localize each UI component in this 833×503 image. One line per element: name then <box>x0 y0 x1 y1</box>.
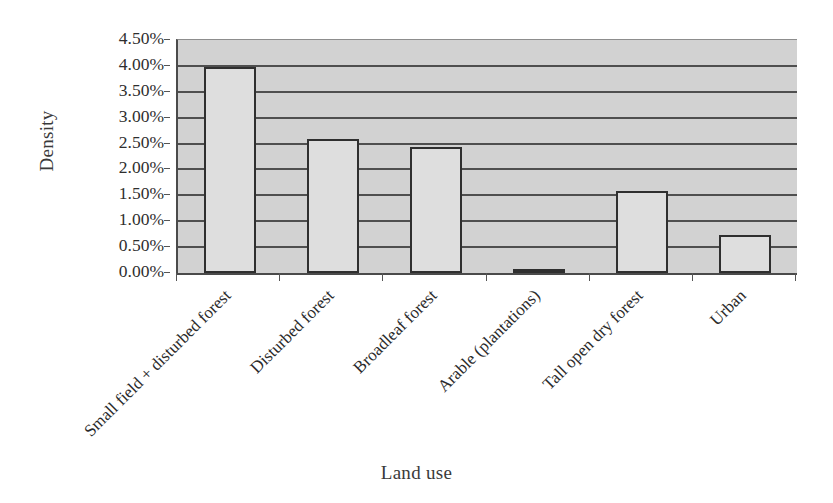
x-axis-title: Land use <box>0 462 833 484</box>
bar[interactable] <box>410 147 462 273</box>
y-axis-tick-mark <box>164 272 170 273</box>
x-axis-tick-mark <box>795 273 796 281</box>
y-axis-tick-label: 1.50% <box>119 186 164 204</box>
y-axis-tick-mark <box>164 39 170 40</box>
x-axis-category-label: Small field + disturbed forest <box>52 286 234 468</box>
x-axis-tick-marks <box>176 273 797 282</box>
bar[interactable] <box>204 67 256 273</box>
y-axis-tick-label: 0.50% <box>119 237 164 255</box>
plot-area <box>176 39 797 273</box>
x-axis-category-label: Tall open dry forest <box>465 286 647 468</box>
x-axis-tick-mark <box>589 273 590 281</box>
y-axis-tick-labels: 0.00%0.50%1.00%1.50%2.00%2.50%3.00%3.50%… <box>104 39 170 272</box>
y-axis-tick-mark <box>164 143 170 144</box>
y-axis-tick-mark <box>164 194 170 195</box>
y-axis-tick-label: 4.00% <box>119 56 164 74</box>
y-axis-title: Density <box>36 81 58 201</box>
y-axis-tick-label: 3.50% <box>119 82 164 100</box>
y-axis-tick-mark <box>164 246 170 247</box>
y-axis-tick-label: 0.00% <box>119 263 164 281</box>
y-axis-tick-label: 2.50% <box>119 134 164 152</box>
y-axis-tick-label: 1.00% <box>119 211 164 229</box>
x-axis-category-label: Urban <box>568 286 750 468</box>
bar-chart: Density 0.00%0.50%1.00%1.50%2.00%2.50%3.… <box>0 0 833 503</box>
x-axis-category-label: Broadleaf forest <box>258 286 440 468</box>
x-axis-tick-mark <box>382 273 383 281</box>
bar[interactable] <box>719 235 771 273</box>
y-axis-tick-mark <box>164 91 170 92</box>
bars-layer <box>178 40 797 273</box>
y-axis-tick-label: 3.00% <box>119 108 164 126</box>
x-axis-tick-mark <box>692 273 693 281</box>
x-axis-tick-mark <box>486 273 487 281</box>
bar[interactable] <box>616 191 668 273</box>
x-axis-category-label: Disturbed forest <box>155 286 337 468</box>
x-axis-tick-mark <box>176 273 177 281</box>
y-axis-tick-mark <box>164 117 170 118</box>
bar[interactable] <box>307 139 359 273</box>
y-axis-tick-mark <box>164 168 170 169</box>
x-axis-category-label: Arable (plantations) <box>361 286 543 468</box>
y-axis-tick-mark <box>164 65 170 66</box>
y-axis-tick-mark <box>164 220 170 221</box>
x-axis-tick-mark <box>279 273 280 281</box>
y-axis-tick-label: 2.00% <box>119 160 164 178</box>
y-axis-tick-label: 4.50% <box>119 30 164 48</box>
